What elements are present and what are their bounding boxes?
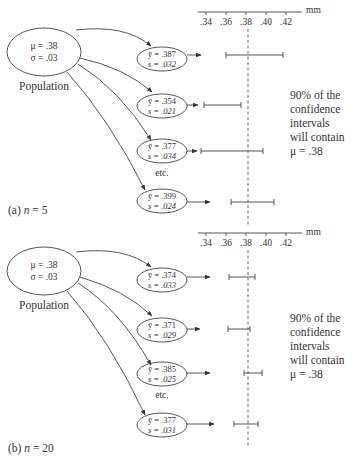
panel-caption-a: (a) n = 5 (8, 204, 48, 217)
sampling-arrow (80, 277, 152, 316)
etc-label: etc. (155, 168, 168, 178)
sample-sd: s = .031 (148, 425, 176, 435)
sample-3: ȳ = .385 s = .025 etc. (137, 362, 210, 400)
svg-text:intervals: intervals (290, 117, 330, 129)
tick-label: .38 (240, 17, 252, 27)
sample-sd: s = .029 (148, 330, 177, 340)
ci-bars-a (201, 52, 283, 205)
confidence-interval (244, 370, 262, 376)
sample-mean: ȳ = .385 (148, 364, 176, 374)
tick-label: .36 (220, 17, 232, 27)
confidence-interval (231, 199, 274, 205)
population-sigma: σ = .03 (30, 53, 57, 63)
tick-label: .40 (260, 17, 272, 27)
ci-bars-b (228, 274, 262, 427)
svg-text:90% of the: 90% of the (290, 89, 340, 101)
axis-unit: mm (306, 5, 321, 15)
svg-text:μ = .38: μ = .38 (290, 145, 323, 158)
axis-b: .34 .36 .38 .40 .42 mm (198, 227, 321, 248)
axis-a: .34 .36 .38 .40 .42 mm (198, 5, 321, 27)
sampling-arrow (80, 58, 152, 92)
tick-label: .40 (260, 238, 272, 248)
sample-mean: ȳ = .387 (148, 49, 176, 59)
svg-text:will contain: will contain (290, 131, 345, 143)
axis-unit: mm (306, 227, 321, 237)
sample-4: ȳ = .399 s = .024 (137, 189, 210, 213)
confidence-interval (229, 274, 255, 280)
population-ellipse (7, 247, 81, 295)
tick-label: .34 (200, 238, 212, 248)
sample-mean: ȳ = .399 (148, 191, 176, 201)
tick-label: .42 (280, 238, 292, 248)
sampling-arrow (67, 72, 145, 190)
panel-a: μ = .38 σ = .03 Population ȳ = .387 s = … (7, 5, 345, 226)
population-ellipse (7, 28, 81, 76)
confidence-interval-diagram: μ = .38 σ = .03 Population ȳ = .387 s = … (0, 0, 352, 459)
sample-sd: s = .033 (148, 280, 176, 290)
sampling-arrow (67, 291, 145, 415)
tick-label: .38 (240, 238, 252, 248)
svg-text:confidence: confidence (290, 103, 340, 115)
svg-text:μ = .38: μ = .38 (290, 368, 323, 381)
coverage-note-a: 90% of the confidence intervals will con… (290, 89, 345, 158)
panel-caption-b: (b) n = 20 (8, 442, 54, 455)
sample-2: ȳ = .371 s = .029 (137, 318, 200, 342)
sample-2: ȳ = .354 s = .021 (137, 94, 198, 118)
sample-sd: s = .032 (148, 59, 177, 69)
svg-text:will contain: will contain (290, 354, 345, 366)
sample-mean: ȳ = .354 (148, 96, 177, 106)
tick-label: .42 (280, 17, 292, 27)
sampling-arrow (76, 29, 151, 46)
sample-sd: s = .024 (148, 201, 177, 211)
sampling-arrow (78, 64, 151, 140)
sample-mean: ȳ = .377 (148, 141, 176, 151)
sample-mean: ȳ = .377 (148, 415, 176, 425)
tick-label: .34 (200, 17, 212, 27)
svg-text:intervals: intervals (290, 340, 330, 352)
sample-sd: s = .025 (148, 374, 176, 384)
confidence-interval (234, 421, 258, 427)
tick-label: .36 (220, 238, 232, 248)
sampling-arrow (76, 251, 151, 267)
svg-text:confidence: confidence (290, 326, 340, 338)
sample-sd: s = .034 (148, 151, 177, 161)
population-label: Population (19, 80, 69, 93)
etc-label: etc. (155, 390, 168, 400)
panel-b: μ = .38 σ = .03 Population ȳ = .374 s = … (7, 227, 345, 455)
sample-1: ȳ = .374 s = .033 (137, 268, 210, 292)
confidence-interval (201, 148, 263, 154)
sample-sd: s = .021 (148, 106, 176, 116)
sample-1: ȳ = .387 s = .032 (137, 47, 201, 71)
svg-text:90% of the: 90% of the (290, 312, 340, 324)
confidence-interval (228, 326, 250, 332)
confidence-interval (226, 52, 283, 58)
population-mu: μ = .38 (30, 41, 57, 51)
coverage-note-b: 90% of the confidence intervals will con… (290, 312, 345, 381)
sample-4: ȳ = .377 s = .031 (137, 413, 214, 437)
confidence-interval (204, 102, 241, 108)
population-label: Population (19, 299, 69, 312)
population-mu: μ = .38 (30, 260, 57, 270)
sample-mean: ȳ = .374 (148, 270, 177, 280)
sample-3: ȳ = .377 s = .034 etc. (137, 139, 197, 178)
sample-mean: ȳ = .371 (148, 320, 176, 330)
population-sigma: σ = .03 (30, 272, 57, 282)
